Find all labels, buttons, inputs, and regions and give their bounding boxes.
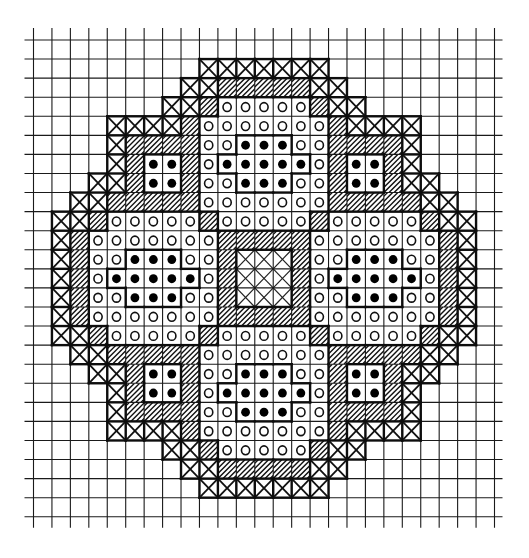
open-circle-cell xyxy=(205,370,213,379)
cross-stitch-cell xyxy=(422,365,438,382)
filled-dot-cell xyxy=(149,255,158,264)
hatch-cell xyxy=(419,288,494,307)
cross-stitch-cell xyxy=(440,346,456,363)
open-circle-cell xyxy=(407,312,415,321)
open-circle-cell xyxy=(297,103,305,112)
cross-stitch-cell xyxy=(459,232,475,249)
cross-stitch-cell xyxy=(459,213,475,230)
filled-dot-cell xyxy=(352,160,361,169)
cross-stitch-cell xyxy=(403,136,419,153)
open-circle-cell xyxy=(297,370,305,379)
open-circle-cell xyxy=(407,217,415,226)
cross-stitch-cell xyxy=(108,365,124,382)
open-circle-cell xyxy=(205,160,213,169)
open-circle-cell xyxy=(223,217,231,226)
cell-symbols xyxy=(50,60,494,497)
open-circle-cell xyxy=(278,198,286,207)
cross-stitch-cell xyxy=(293,480,309,497)
cross-stitch-cell xyxy=(200,480,216,497)
filled-dot-cell xyxy=(149,179,158,188)
filled-dot-cell xyxy=(352,293,361,302)
center-lattice-cell xyxy=(273,288,291,307)
open-circle-cell xyxy=(168,217,176,226)
open-circle-cell xyxy=(205,122,213,131)
cross-stitch-cell xyxy=(459,251,475,268)
cross-stitch-cell xyxy=(348,422,364,439)
open-circle-cell xyxy=(241,103,249,112)
center-lattice-cell xyxy=(273,269,291,288)
open-circle-cell xyxy=(131,312,139,321)
open-circle-cell xyxy=(334,293,342,302)
open-circle-cell xyxy=(223,122,231,131)
open-circle-cell xyxy=(315,198,323,207)
open-circle-cell xyxy=(334,312,342,321)
cross-stitch-cell xyxy=(459,289,475,306)
open-circle-cell xyxy=(112,236,120,245)
cross-stitch-cell xyxy=(440,327,456,344)
filled-dot-cell xyxy=(260,408,269,417)
open-circle-cell xyxy=(205,236,213,245)
open-circle-cell xyxy=(112,312,120,321)
open-circle-cell xyxy=(186,217,194,226)
cross-stitch-cell xyxy=(71,327,87,344)
cross-stitch-cell xyxy=(403,155,419,172)
cross-stitch-cell xyxy=(366,117,382,134)
open-circle-cell xyxy=(94,312,102,321)
cross-stitch-cell xyxy=(403,422,419,439)
hatch-cell xyxy=(308,421,383,440)
cross-stitch-cell xyxy=(182,79,198,96)
open-circle-cell xyxy=(205,198,213,207)
open-circle-cell xyxy=(260,103,268,112)
open-circle-cell xyxy=(131,331,139,340)
filled-dot-cell xyxy=(167,274,176,283)
open-circle-cell xyxy=(297,122,305,131)
open-circle-cell xyxy=(168,236,176,245)
cross-stitch-cell xyxy=(219,480,235,497)
open-circle-cell xyxy=(205,389,213,398)
open-circle-cell xyxy=(278,427,286,436)
hatch-cell xyxy=(179,212,254,231)
open-circle-cell xyxy=(260,217,268,226)
hatch-cell xyxy=(197,288,272,307)
open-circle-cell xyxy=(94,293,102,302)
hatch-cell xyxy=(400,212,475,231)
open-circle-cell xyxy=(297,408,305,417)
cross-stitch-cell xyxy=(219,60,235,77)
hatch-cell xyxy=(290,97,365,116)
filled-dot-cell xyxy=(260,179,269,188)
hatch-cell xyxy=(197,250,272,269)
filled-dot-cell xyxy=(370,274,379,283)
filled-dot-cell xyxy=(389,255,398,264)
cross-stitch-cell xyxy=(237,60,253,77)
hatch-cell xyxy=(197,269,272,288)
cross-stitch-cell xyxy=(53,251,69,268)
filled-dot-cell xyxy=(149,274,158,283)
cross-stitch-cell xyxy=(311,60,327,77)
open-circle-cell xyxy=(315,179,323,188)
cross-stitch-cell xyxy=(108,422,124,439)
open-circle-cell xyxy=(112,255,120,264)
open-circle-cell xyxy=(205,179,213,188)
filled-dot-cell xyxy=(131,274,140,283)
filled-dot-cell xyxy=(370,293,379,302)
cross-stitch-cell xyxy=(53,308,69,325)
filled-dot-cell xyxy=(370,179,379,188)
open-circle-cell xyxy=(297,179,305,188)
filled-dot-cell xyxy=(278,389,287,398)
open-circle-cell xyxy=(407,331,415,340)
open-circle-cell xyxy=(426,255,434,264)
open-circle-cell xyxy=(315,427,323,436)
open-circle-cell xyxy=(168,312,176,321)
cross-stitch-cell xyxy=(164,117,180,134)
filled-dot-cell xyxy=(241,160,250,169)
open-circle-cell xyxy=(315,141,323,150)
cross-stitch-cell xyxy=(385,422,401,439)
filled-dot-cell xyxy=(167,389,176,398)
cross-stitch-cell xyxy=(182,461,198,478)
filled-dot-cell xyxy=(370,255,379,264)
open-circle-cell xyxy=(149,236,157,245)
filled-dot-cell xyxy=(241,141,250,150)
hatch-cell xyxy=(290,212,365,231)
center-lattice-cell xyxy=(255,288,273,307)
cross-stitch-cell xyxy=(53,232,69,249)
